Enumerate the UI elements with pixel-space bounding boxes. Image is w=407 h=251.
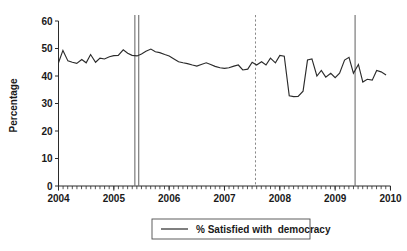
y-tick-label: 50 [41, 43, 53, 54]
chart-figure: 0102030405060Percentage20042005200620072… [0, 0, 407, 251]
plot-area: 0102030405060Percentage20042005200620072… [8, 15, 402, 204]
y-tick-label: 30 [41, 98, 53, 109]
x-tick-label: 2007 [213, 193, 236, 204]
y-tick-label: 40 [41, 71, 53, 82]
y-tick-label: 60 [41, 16, 53, 27]
y-tick-label: 20 [41, 126, 53, 137]
line-chart-svg: 0102030405060Percentage20042005200620072… [0, 0, 407, 251]
x-tick-label: 2008 [269, 193, 292, 204]
x-tick-label: 2004 [47, 193, 70, 204]
x-tick-label: 2009 [324, 193, 347, 204]
y-axis-title: Percentage [8, 78, 19, 132]
chart-legend: % Satisfied with democracy [152, 219, 331, 239]
x-tick-label: 2005 [103, 193, 126, 204]
x-tick-label: 2006 [158, 193, 181, 204]
y-tick-label: 0 [47, 181, 53, 192]
x-tick-label: 2010 [379, 193, 402, 204]
y-tick-label: 10 [41, 153, 53, 164]
series-line-0 [59, 49, 387, 97]
legend-label: % Satisfied with democracy [196, 224, 331, 235]
